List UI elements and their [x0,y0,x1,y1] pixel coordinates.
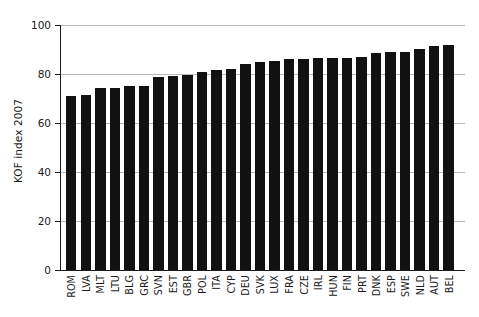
x-axis-label-LVA: LVA [80,275,91,292]
bar-ITA[interactable] [211,70,221,270]
bar-slot [151,25,166,270]
x-axis-label-DEU: DEU [240,275,251,296]
bar-LVA[interactable] [81,95,91,270]
bar-FIN[interactable] [342,58,352,270]
bar-FRA[interactable] [284,59,294,270]
bar-SVK[interactable] [255,62,265,270]
bar-SVN[interactable] [153,77,163,270]
x-label-slot: POL [195,273,210,317]
x-axis-label-LTU: LTU [109,275,120,292]
x-label-slot: EST [166,273,181,317]
bar-CYP[interactable] [226,69,236,270]
bar-slot [238,25,253,270]
x-label-slot: SWE [398,273,413,317]
x-label-slot: GRC [137,273,152,317]
y-tick-60 [55,123,60,124]
bar-LUX[interactable] [269,61,279,270]
bar-slot [267,25,282,270]
x-axis-label-ITA: ITA [211,275,222,290]
y-tick-0 [55,270,60,271]
bar-slot [122,25,137,270]
bar-slot [195,25,210,270]
bar-IRL[interactable] [313,58,323,270]
bar-slot [93,25,108,270]
bar-slot [340,25,355,270]
bar-slot [79,25,94,270]
x-axis-label-PRT: PRT [356,275,367,293]
bar-slot [354,25,369,270]
y-tick-label-20: 20 [38,215,51,227]
x-axis-label-SVK: SVK [254,275,265,294]
bar-BEL[interactable] [443,45,453,270]
bar-PRT[interactable] [356,57,366,270]
x-axis-label-ESP: ESP [385,275,396,293]
bar-DEU[interactable] [240,64,250,270]
x-axis-label-AUT: AUT [429,275,440,295]
x-label-slot: ROM [64,273,79,317]
bar-EST[interactable] [168,76,178,270]
bar-series [64,25,456,270]
bar-NLD[interactable] [414,49,424,270]
x-axis-label-EST: EST [167,275,178,293]
bar-slot [253,25,268,270]
x-label-slot: SVN [151,273,166,317]
bar-ESP[interactable] [385,52,395,270]
x-axis-label-BLG: BLG [124,275,135,295]
x-axis-label-LUX: LUX [269,275,280,294]
x-axis-label-SWE: SWE [400,275,411,297]
bar-DNK[interactable] [371,53,381,270]
bar-slot [296,25,311,270]
bar-BLG[interactable] [124,86,134,270]
x-label-slot: FIN [340,273,355,317]
x-label-slot: PRT [354,273,369,317]
x-label-slot: MLT [93,273,108,317]
y-tick-100 [55,25,60,26]
gridline-0 [60,270,465,271]
bar-CZE[interactable] [298,59,308,270]
bar-POL[interactable] [197,72,207,270]
bar-slot [325,25,340,270]
x-label-slot: NLD [412,273,427,317]
plot-area: 020406080100 [60,25,465,270]
bar-HUN[interactable] [327,58,337,270]
x-label-slot: BLG [122,273,137,317]
bar-slot [369,25,384,270]
y-tick-20 [55,221,60,222]
x-axis-label-SVN: SVN [153,275,164,295]
bar-slot [166,25,181,270]
x-axis-labels: ROMLVAMLTLTUBLGGRCSVNESTGBRPOLITACYPDEUS… [64,273,456,317]
x-axis-label-HUN: HUN [327,275,338,297]
x-label-slot: FRA [282,273,297,317]
kof-index-bar-chart: KOF index 2007 020406080100 ROMLVAMLTLTU… [0,0,479,317]
x-label-slot: SVK [253,273,268,317]
bar-MLT[interactable] [95,88,105,270]
x-axis-label-GRC: GRC [138,275,149,296]
x-label-slot: DEU [238,273,253,317]
y-axis-title: KOF index 2007 [12,81,24,201]
x-axis-label-IRL: IRL [313,275,324,290]
bar-slot [209,25,224,270]
y-tick-label-0: 0 [44,264,51,276]
x-label-slot: GBR [180,273,195,317]
x-axis-label-DNK: DNK [371,275,382,296]
bar-slot [64,25,79,270]
bar-GRC[interactable] [139,86,149,270]
bar-slot [282,25,297,270]
x-axis-label-FIN: FIN [342,275,353,291]
bar-LTU[interactable] [110,88,120,270]
bar-AUT[interactable] [429,46,439,270]
bar-slot [398,25,413,270]
y-tick-label-40: 40 [38,166,51,178]
bar-slot [412,25,427,270]
bar-ROM[interactable] [66,96,76,270]
bar-slot [311,25,326,270]
y-tick-label-60: 60 [38,117,51,129]
y-axis-spine [60,25,61,270]
bar-slot [108,25,123,270]
bar-GBR[interactable] [182,75,192,271]
y-tick-label-80: 80 [38,68,51,80]
bar-SWE[interactable] [400,52,410,270]
x-label-slot: IRL [311,273,326,317]
x-axis-label-BEL: BEL [443,275,454,293]
x-axis-label-MLT: MLT [95,275,106,293]
